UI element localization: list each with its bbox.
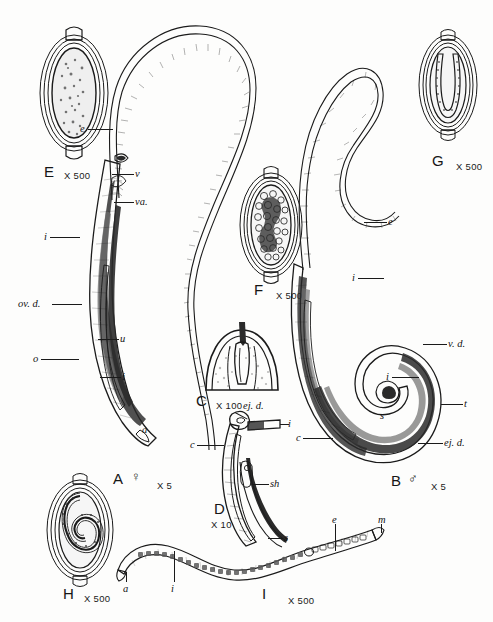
panel-B-drawing [285, 18, 470, 478]
magnification-H: X 500 [84, 593, 110, 604]
figure-letter-H: H [63, 585, 74, 602]
leader-B-intestine-lower [392, 377, 419, 378]
label-I-intestine: i [171, 583, 174, 594]
sex-symbol-B: ♂ [408, 471, 418, 487]
figure-letter-B: B [391, 472, 402, 489]
leader-A-ovary [41, 359, 79, 360]
panel-B [285, 18, 470, 478]
label-I-anus: a [123, 583, 128, 594]
label-B-cloaca: c [296, 432, 301, 443]
leader-A-vagina [114, 202, 134, 203]
label-B-vas-deferens: v. d. [448, 338, 465, 349]
label-B-ejaculatory-duct: ej. d. [444, 437, 465, 448]
leader-A-oviduct [52, 304, 82, 305]
magnification-A: X 5 [157, 480, 172, 491]
label-A-intestine-upper: i [44, 231, 47, 242]
illustration-plate: E X 500 [0, 0, 493, 622]
leader-I-anus [126, 572, 127, 582]
label-A-intestine-lower: i [122, 371, 125, 382]
figure-letter-E: E [44, 163, 55, 180]
leader-I-esophagus [335, 524, 336, 551]
label-A-ovary: o [33, 353, 38, 364]
figure-letter-I: I [262, 585, 267, 602]
leader-D-cloaca [197, 445, 224, 446]
leader-I-mouth [381, 524, 382, 533]
label-B-spicule: s [380, 410, 384, 421]
leader-I-intestine [174, 551, 175, 582]
sex-symbol-A: ♀ [131, 469, 141, 485]
label-A-esophagus: e [80, 123, 85, 134]
label-A-vulva: v [135, 168, 140, 179]
figure-letter-D: D [214, 500, 225, 517]
leader-A-vulva [112, 174, 134, 175]
label-B-testis: t [464, 398, 467, 409]
magnification-I: X 500 [288, 595, 314, 606]
panel-I-drawing [110, 518, 390, 588]
label-B-intestine-lower: i [386, 371, 389, 382]
label-D-ejaculatory-duct: ej. d. [243, 400, 264, 411]
leader-B-vas-deferens [423, 344, 447, 345]
label-D-sheath: sh [270, 478, 279, 489]
magnification-B: X 5 [431, 481, 446, 492]
label-D-cloaca: c [190, 439, 195, 450]
leader-B-cloaca [303, 438, 333, 439]
leader-B-ejaculatory-duct [418, 443, 443, 444]
leader-A-intestine-upper [50, 237, 80, 238]
leader-A-esophagus [88, 129, 113, 130]
leader-B-intestine-upper [358, 278, 384, 279]
figure-letter-F: F [254, 281, 264, 298]
label-B-intestine-upper: i [352, 272, 355, 283]
label-A-uterus: u [120, 333, 125, 344]
panel-C [196, 322, 288, 394]
label-A-oviduct: ov. d. [18, 298, 40, 309]
panel-C-drawing [196, 322, 288, 392]
panel-I [110, 518, 390, 588]
leader-B-testis [441, 404, 463, 405]
label-A-vagina: va. [135, 196, 148, 207]
leader-B-esophagus [364, 222, 387, 223]
label-B-esophagus: e [388, 216, 393, 227]
leader-D-sheath [252, 484, 269, 485]
label-A-anus: a [142, 424, 147, 435]
leader-A-intestine-lower [100, 377, 121, 378]
leader-A-uterus [98, 339, 119, 340]
